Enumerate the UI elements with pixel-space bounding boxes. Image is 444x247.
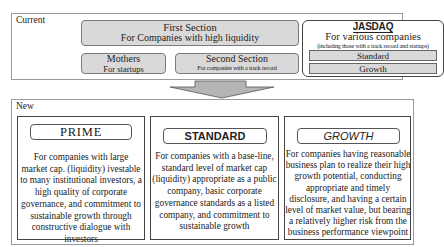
mothers-title: Mothers <box>82 54 165 65</box>
jasdaq-box: JASDAQ For various companies (including … <box>302 20 444 77</box>
mothers-subtitle: For startups <box>82 65 165 74</box>
prime-title-box: PRIME <box>30 124 132 140</box>
first-section-subtitle: For Companies with high liquidity <box>82 33 298 44</box>
prime-description: For companies with large market cap. (li… <box>20 152 142 246</box>
second-section-subtitle: For companies with a track record <box>176 65 298 72</box>
new-label: New <box>16 101 34 111</box>
current-label: Current <box>16 15 45 25</box>
prime-title: PRIME <box>31 125 131 140</box>
down-arrow-icon <box>170 80 280 100</box>
second-section-title: Second Section <box>176 54 298 65</box>
growth-title: GROWTH <box>298 129 399 144</box>
first-section-box: First Section For Companies with high li… <box>81 20 299 46</box>
standard-title-box: STANDARD <box>163 128 267 144</box>
second-section-box: Second Section For companies with a trac… <box>175 53 299 74</box>
growth-description: For companies having reasonable business… <box>285 149 411 239</box>
jasdaq-subtitle: (including those with a track record and… <box>303 43 443 50</box>
standard-title: STANDARD <box>164 129 266 144</box>
standard-description: For companies with a base-line, standard… <box>152 151 277 233</box>
jasdaq-standard-tier: Standard <box>309 50 437 61</box>
jasdaq-growth-tier: Growth <box>309 63 437 74</box>
jasdaq-title: For various companies <box>303 32 443 43</box>
mothers-box: Mothers For startups <box>81 53 166 74</box>
growth-title-box: GROWTH <box>297 128 400 144</box>
